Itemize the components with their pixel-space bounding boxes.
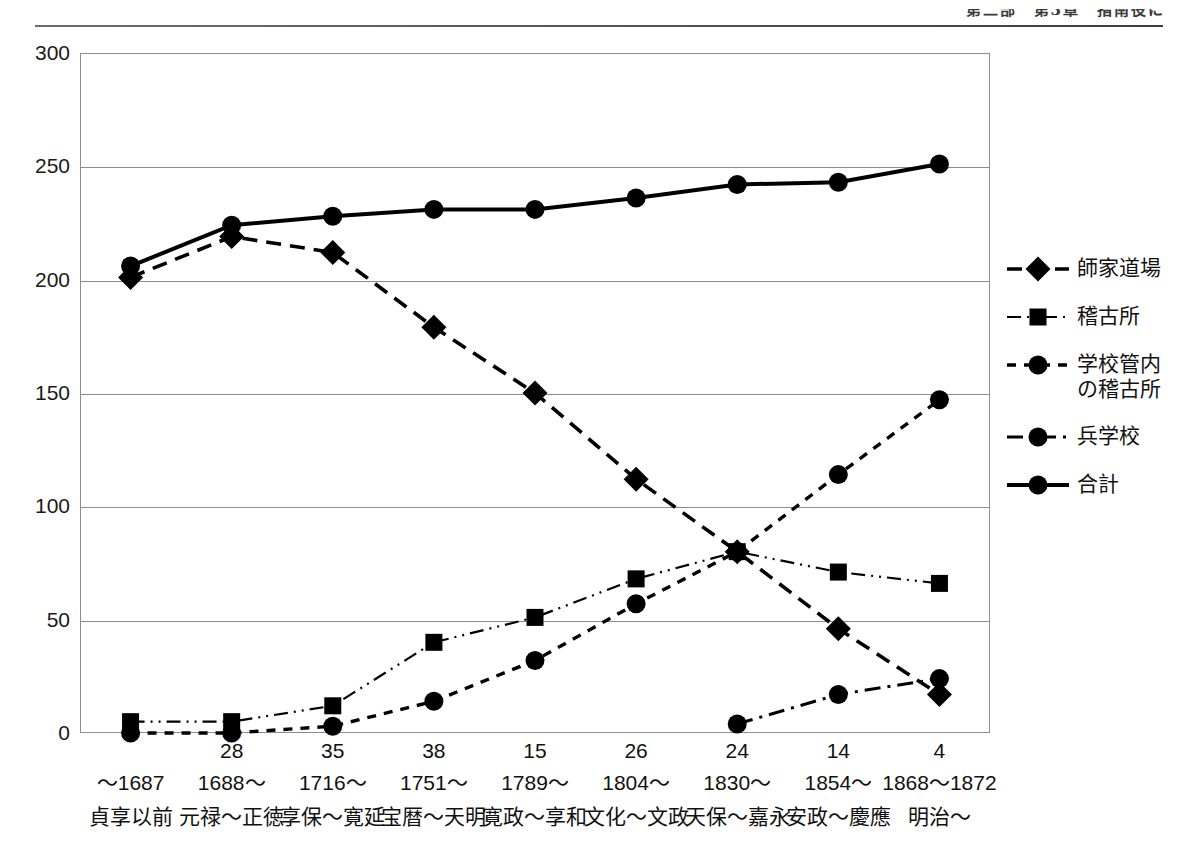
legend-key-diamond-icon (1005, 256, 1071, 282)
data-point (526, 651, 545, 670)
data-point (930, 669, 949, 688)
data-point (628, 570, 645, 587)
data-point (324, 697, 341, 714)
data-point (222, 216, 241, 235)
y-tick-label: 150 (4, 381, 70, 405)
chart-legend: 師家道場稽古所学校管内 の稽古所兵学校合計 (1005, 256, 1173, 520)
data-point (121, 257, 140, 276)
legend-label: 師家道場 (1077, 256, 1161, 281)
x-axis-column: 41868～1872明治～ (854, 736, 1026, 834)
series-3 (121, 390, 949, 742)
legend-item-5[interactable]: 合計 (1005, 472, 1173, 498)
data-point (627, 189, 646, 208)
y-tick-label: 50 (4, 608, 70, 632)
data-point (931, 575, 948, 592)
x-axis-era: 明治～ (854, 800, 1026, 834)
x-axis-year-range: 1868～1872 (854, 766, 1026, 800)
legend-key-circle-icon (1005, 424, 1071, 450)
data-point (421, 315, 446, 340)
data-point (424, 692, 443, 711)
data-point (320, 240, 345, 265)
data-point (829, 173, 848, 192)
data-point (526, 200, 545, 219)
data-point (728, 175, 747, 194)
series-4 (728, 669, 949, 733)
legend-item-4[interactable]: 兵学校 (1005, 424, 1173, 450)
legend-key-circle-icon (1005, 472, 1071, 498)
x-axis-labels: ～1687貞享以前281688～元禄～正徳351716～享保～寛延381751～… (80, 736, 990, 854)
series-line (131, 552, 940, 722)
legend-label: 合計 (1077, 472, 1119, 497)
data-point (930, 390, 949, 409)
data-point (323, 717, 342, 736)
y-tick-label: 300 (4, 41, 70, 65)
series-5 (121, 155, 949, 276)
legend-key-square-icon (1005, 304, 1071, 330)
y-tick-label: 200 (4, 268, 70, 292)
data-point (830, 564, 847, 581)
series-2 (122, 543, 948, 730)
x-axis-count: 4 (854, 736, 1026, 766)
legend-label: 稽古所 (1077, 304, 1140, 329)
legend-item-2[interactable]: 稽古所 (1005, 304, 1173, 330)
data-point (728, 542, 747, 561)
series-layer (80, 53, 990, 733)
y-tick-label: 100 (4, 494, 70, 518)
y-axis-ticks: 050100150200250300 (0, 53, 70, 733)
data-point (627, 594, 646, 613)
data-point (728, 714, 747, 733)
data-point (424, 200, 443, 219)
legend-item-1[interactable]: 師家道場 (1005, 256, 1173, 282)
data-point (829, 685, 848, 704)
series-line (131, 400, 940, 733)
data-point (425, 634, 442, 651)
legend-key-circle-icon (1005, 352, 1071, 378)
chart-page: 第二部 第3章 指南役に 050100150200250300 ～1687貞享以… (0, 0, 1177, 857)
legend-item-3[interactable]: 学校管内 の稽古所 (1005, 352, 1173, 402)
data-point (527, 609, 544, 626)
y-tick-label: 250 (4, 154, 70, 178)
data-point (829, 465, 848, 484)
legend-label: 兵学校 (1077, 424, 1140, 449)
series-1 (118, 224, 952, 707)
legend-label: 学校管内 の稽古所 (1077, 352, 1161, 402)
line-chart: 050100150200250300 ～1687貞享以前281688～元禄～正徳… (0, 0, 1177, 857)
data-point (323, 207, 342, 226)
data-point (930, 155, 949, 174)
